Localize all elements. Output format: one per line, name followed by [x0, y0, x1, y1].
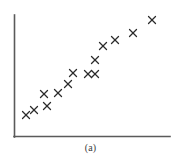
data-markers-group — [23, 17, 156, 119]
figure-caption: (a) — [85, 142, 97, 153]
data-point-marker — [100, 43, 107, 50]
data-point-marker — [85, 71, 92, 78]
scatter-plot — [0, 0, 181, 165]
figure-caption-area: (a) — [0, 142, 181, 154]
data-point-marker — [92, 71, 99, 78]
axes-group — [14, 15, 170, 137]
data-point-marker — [44, 103, 51, 110]
data-point-marker — [92, 57, 99, 64]
data-point-marker — [23, 112, 30, 119]
data-point-marker — [112, 37, 119, 44]
data-point-marker — [70, 70, 77, 77]
data-point-marker — [65, 81, 72, 88]
data-point-marker — [149, 17, 156, 24]
data-point-marker — [31, 107, 38, 114]
data-point-marker — [130, 30, 137, 37]
data-point-marker — [55, 90, 62, 97]
figure-panel: (a) — [0, 0, 181, 165]
data-point-marker — [41, 91, 48, 98]
